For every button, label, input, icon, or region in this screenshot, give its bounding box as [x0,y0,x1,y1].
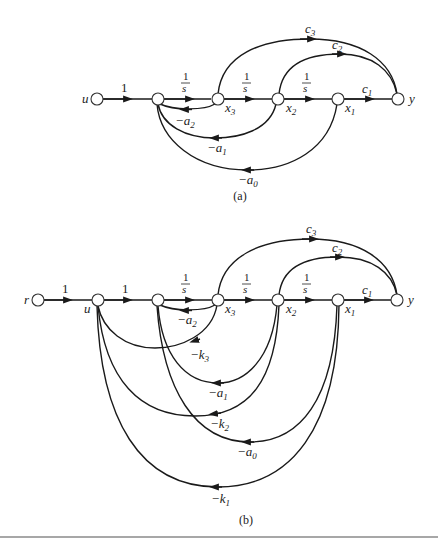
node-x3 [212,294,224,306]
gain-c2: c2 [332,37,343,54]
svg-text:1: 1 [244,271,250,283]
label-u: u [84,301,91,316]
node-x2 [272,93,284,105]
node-x3 [212,93,224,105]
label-x2: x2 [285,100,297,117]
gain-1-over-s-x2-x1: 1 s [302,70,311,94]
gain-neg-a0: −a0 [237,444,257,461]
gain-neg-a2: −a2 [175,113,195,130]
gain-neg-k1: −k1 [211,491,230,508]
gain-neg-k3: −k3 [190,347,210,364]
node-x2 [272,294,284,306]
gain-c3: c3 [305,21,316,38]
gain-1-u-sum: 1 [122,281,129,296]
label-x1: x1 [344,100,355,117]
signal-flow-graphs: u y 1 1 s 1 s 1 s c1 c2 c3 x3 x2 x1 −a2 … [0,0,438,546]
gain-neg-a1: −a1 [207,140,227,157]
svg-text:1: 1 [183,70,189,82]
node-sum [152,93,164,105]
node-x1 [332,294,344,306]
svg-text:s: s [182,82,186,94]
node-u [91,93,103,105]
gain-c3: c3 [306,221,317,238]
gain-neg-a1: −a1 [208,385,228,402]
gain-neg-a0: −a0 [238,172,258,189]
label-y: y [406,292,414,307]
svg-text:s: s [182,283,186,295]
gain-1: 1 [121,80,128,95]
svg-text:1: 1 [244,70,250,82]
node-sum [152,294,164,306]
caption-a: (a) [233,189,246,203]
label-x1: x1 [344,301,355,318]
label-x3: x3 [224,301,236,318]
svg-text:s: s [303,82,307,94]
gain-1-over-s-x3-x2: 1 s [242,271,251,295]
svg-text:1: 1 [183,271,189,283]
gain-neg-a2: −a2 [177,312,197,329]
svg-text:s: s [243,82,247,94]
diagram-b: r u y 1 1 1 s 1 s 1 s c1 c2 c3 x3 x2 x1 … [24,221,414,527]
node-u [92,294,104,306]
gain-neg-k2: −k2 [210,416,230,433]
label-y: y [407,91,415,106]
svg-text:s: s [243,283,247,295]
node-r [32,294,44,306]
arrow-icon [194,339,200,341]
label-r: r [24,292,30,307]
svg-text:s: s [303,283,307,295]
caption-b: (b) [239,513,253,527]
edge-x3-sum-a2 [160,104,215,109]
node-x1 [332,93,344,105]
edge-x2-y-c2 [279,257,397,295]
label-x3: x3 [224,100,236,117]
label-u: u [82,91,89,106]
gain-1-over-s-sum-x3: 1 s [181,70,190,94]
edge-x3-sum-a2 [160,305,215,310]
gain-1-r-u: 1 [62,281,69,296]
diagram-a: u y 1 1 s 1 s 1 s c1 c2 c3 x3 x2 x1 −a2 … [82,21,415,203]
gain-1-over-s-x2-x1: 1 s [302,271,311,295]
svg-text:1: 1 [304,70,310,82]
node-y [391,294,403,306]
gain-c1: c1 [362,81,372,98]
gain-c1: c1 [362,282,372,299]
node-y [392,93,404,105]
gain-1-over-s-sum-x3: 1 s [181,271,190,295]
edge-x2-sum-a1 [158,305,277,383]
gain-1-over-s-x3-x2: 1 s [242,70,251,94]
arrow-icon [213,413,221,414]
svg-text:1: 1 [304,271,310,283]
label-x2: x2 [285,301,297,318]
